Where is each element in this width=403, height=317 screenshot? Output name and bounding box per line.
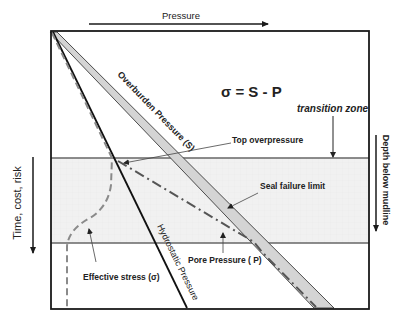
pressure-axis-label: Pressure bbox=[162, 10, 200, 21]
depth-below-mudline-label: Depth below mudline bbox=[381, 135, 391, 226]
pore-pressure-label: Pore Pressure ( P) bbox=[188, 255, 262, 265]
effective-stress-equation: σ = S - P bbox=[221, 83, 282, 100]
effective-stress-label: Effective stress (σ) bbox=[83, 272, 160, 282]
transition-zone-label: transition zone bbox=[297, 103, 369, 114]
pressure-depth-diagram: Pressure σ = S - P transition zone Overb… bbox=[0, 0, 403, 317]
transition-zone-band bbox=[51, 158, 369, 243]
seal-failure-limit-label: Seal failure limit bbox=[260, 181, 325, 191]
top-overpressure-label: Top overpressure bbox=[232, 135, 303, 145]
time-cost-risk-label: Time, cost, risk bbox=[11, 166, 23, 240]
